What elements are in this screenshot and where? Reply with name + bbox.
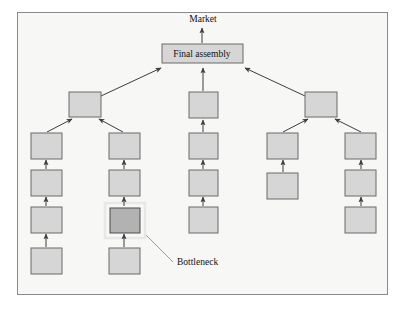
node-rect-col5-r3 (345, 207, 376, 233)
node-rect-col1-r3 (31, 207, 62, 233)
node-col2-r1 (109, 133, 140, 159)
node-rect-col3-r2 (189, 170, 218, 196)
bottleneck-label: Bottleneck (177, 257, 218, 267)
final-assembly-label: Final assembly (173, 49, 231, 59)
market-label: Market (189, 14, 217, 24)
node-col2-r3 (110, 208, 140, 233)
node-rect-tier2-middle (189, 92, 218, 118)
node-rect-col2-r1 (109, 133, 140, 159)
node-col1-r3 (31, 207, 62, 233)
node-rect-col3-r3 (189, 207, 218, 233)
node-rect-col5-r1 (345, 133, 376, 159)
node-col2-r4 (109, 248, 140, 274)
node-rect-col5-r2 (345, 170, 376, 196)
node-col1-r2 (31, 170, 62, 196)
node-col5-r1 (345, 133, 376, 159)
node-rect-col3-r1 (189, 133, 218, 159)
node-rect-col4-r1 (267, 133, 298, 159)
arrow-col2-r1-to-tier2-left (99, 119, 123, 132)
diagram-canvas: MarketFinal assemblyBottleneck Market Fi… (0, 0, 405, 315)
bottleneck-leader-line (144, 233, 173, 262)
node-rect-col2-r3 (110, 208, 140, 233)
node-rect-tier2-left (69, 92, 101, 117)
node-rect-col1-r4 (31, 248, 62, 274)
arrow-tier2-right-to-assembly (245, 68, 305, 96)
arrow-col1-r1-to-tier2-left (47, 119, 72, 132)
node-tier2-right (305, 92, 337, 117)
node-col1-r1 (31, 133, 62, 159)
node-rect-col2-r2 (109, 170, 140, 196)
node-rect-col4-r2 (267, 173, 298, 199)
node-col5-r3 (345, 207, 376, 233)
node-rect-col1-r2 (31, 170, 62, 196)
node-col2-r2 (109, 170, 140, 196)
arrow-tier2-left-to-assembly (101, 68, 161, 96)
node-rect-col2-r4 (109, 248, 140, 274)
node-col3-r1 (189, 133, 218, 159)
node-col3-r2 (189, 170, 218, 196)
node-col3-r3 (189, 207, 218, 233)
node-col1-r4 (31, 248, 62, 274)
arrow-col4-r1-to-tier2-right (283, 119, 308, 132)
supply-chain-diagram: MarketFinal assemblyBottleneck (0, 0, 405, 315)
leader-line (144, 233, 173, 262)
node-rect-tier2-right (305, 92, 337, 117)
node-rect-col1-r1 (31, 133, 62, 159)
node-tier2-middle (189, 92, 218, 118)
node-tier2-left (69, 92, 101, 117)
node-col4-r2 (267, 173, 298, 199)
node-col4-r1 (267, 133, 298, 159)
node-col5-r2 (345, 170, 376, 196)
arrow-col5-r1-to-tier2-right (335, 119, 361, 132)
